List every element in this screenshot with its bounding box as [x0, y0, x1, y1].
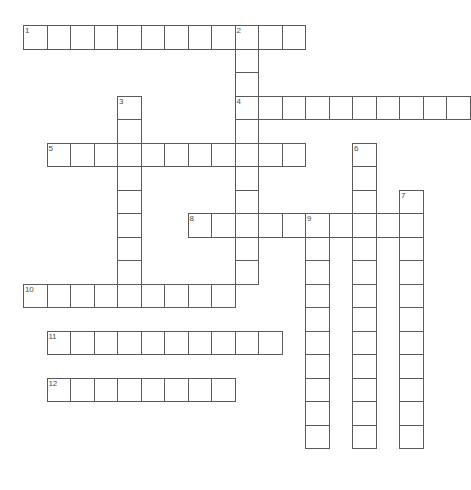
crossword-cell[interactable]	[235, 260, 260, 285]
crossword-cell[interactable]	[399, 354, 424, 379]
crossword-cell[interactable]	[258, 143, 283, 168]
crossword-cell[interactable]	[258, 331, 283, 356]
crossword-cell[interactable]	[399, 378, 424, 403]
crossword-cell[interactable]	[305, 307, 330, 332]
crossword-cell[interactable]	[282, 96, 307, 121]
crossword-cell[interactable]	[141, 143, 166, 168]
crossword-cell[interactable]	[117, 284, 142, 309]
crossword-cell[interactable]: 9	[305, 213, 330, 238]
crossword-cell[interactable]	[399, 425, 424, 450]
crossword-cell[interactable]	[70, 143, 95, 168]
crossword-cell[interactable]	[94, 284, 119, 309]
crossword-cell[interactable]	[164, 284, 189, 309]
crossword-cell[interactable]	[399, 284, 424, 309]
crossword-cell[interactable]	[117, 260, 142, 285]
crossword-cell[interactable]: 12	[47, 378, 72, 403]
crossword-cell[interactable]	[70, 284, 95, 309]
crossword-cell[interactable]	[352, 425, 377, 450]
crossword-cell[interactable]	[117, 378, 142, 403]
crossword-cell[interactable]	[305, 331, 330, 356]
crossword-cell[interactable]	[399, 401, 424, 426]
crossword-cell[interactable]	[211, 213, 236, 238]
crossword-cell[interactable]	[188, 25, 213, 50]
crossword-cell[interactable]: 5	[47, 143, 72, 168]
crossword-cell[interactable]	[235, 143, 260, 168]
crossword-cell[interactable]	[305, 260, 330, 285]
crossword-cell[interactable]	[329, 96, 354, 121]
crossword-cell[interactable]	[235, 49, 260, 74]
crossword-cell[interactable]	[188, 284, 213, 309]
crossword-cell[interactable]	[235, 331, 260, 356]
crossword-cell[interactable]	[235, 213, 260, 238]
crossword-cell[interactable]	[164, 143, 189, 168]
crossword-cell[interactable]	[282, 143, 307, 168]
crossword-cell[interactable]	[70, 25, 95, 50]
crossword-cell[interactable]	[305, 378, 330, 403]
crossword-cell[interactable]	[305, 425, 330, 450]
crossword-cell[interactable]	[47, 284, 72, 309]
crossword-cell[interactable]	[352, 213, 377, 238]
crossword-cell[interactable]	[282, 213, 307, 238]
crossword-cell[interactable]: 3	[117, 96, 142, 121]
crossword-cell[interactable]	[211, 25, 236, 50]
crossword-cell[interactable]	[211, 331, 236, 356]
crossword-cell[interactable]	[188, 331, 213, 356]
crossword-cell[interactable]	[305, 237, 330, 262]
crossword-cell[interactable]	[117, 213, 142, 238]
crossword-cell[interactable]	[235, 166, 260, 191]
crossword-cell[interactable]	[188, 143, 213, 168]
crossword-cell[interactable]	[376, 213, 401, 238]
crossword-cell[interactable]	[352, 307, 377, 332]
crossword-cell[interactable]	[352, 96, 377, 121]
crossword-cell[interactable]	[188, 378, 213, 403]
crossword-cell[interactable]: 2	[235, 25, 260, 50]
crossword-cell[interactable]	[352, 260, 377, 285]
crossword-cell[interactable]	[258, 96, 283, 121]
crossword-cell[interactable]	[352, 354, 377, 379]
crossword-cell[interactable]	[258, 213, 283, 238]
crossword-cell[interactable]	[305, 96, 330, 121]
crossword-cell[interactable]	[352, 401, 377, 426]
crossword-cell[interactable]	[305, 401, 330, 426]
crossword-cell[interactable]	[117, 119, 142, 144]
crossword-cell[interactable]: 10	[23, 284, 48, 309]
crossword-cell[interactable]	[235, 119, 260, 144]
crossword-cell[interactable]	[141, 331, 166, 356]
crossword-cell[interactable]	[352, 331, 377, 356]
crossword-cell[interactable]	[211, 284, 236, 309]
crossword-cell[interactable]	[117, 190, 142, 215]
crossword-cell[interactable]	[446, 96, 471, 121]
crossword-cell[interactable]	[164, 331, 189, 356]
crossword-cell[interactable]	[70, 378, 95, 403]
crossword-cell[interactable]: 11	[47, 331, 72, 356]
crossword-cell[interactable]	[399, 96, 424, 121]
crossword-cell[interactable]	[94, 143, 119, 168]
crossword-cell[interactable]	[352, 378, 377, 403]
crossword-cell[interactable]	[211, 143, 236, 168]
crossword-cell[interactable]	[94, 378, 119, 403]
crossword-cell[interactable]: 8	[188, 213, 213, 238]
crossword-cell[interactable]	[376, 96, 401, 121]
crossword-cell[interactable]	[117, 143, 142, 168]
crossword-cell[interactable]	[235, 190, 260, 215]
crossword-cell[interactable]: 1	[23, 25, 48, 50]
crossword-cell[interactable]: 7	[399, 190, 424, 215]
crossword-cell[interactable]	[352, 190, 377, 215]
crossword-cell[interactable]	[329, 213, 354, 238]
crossword-cell[interactable]	[352, 237, 377, 262]
crossword-cell[interactable]	[423, 96, 448, 121]
crossword-cell[interactable]	[305, 284, 330, 309]
crossword-cell[interactable]	[399, 307, 424, 332]
crossword-cell[interactable]	[117, 166, 142, 191]
crossword-cell[interactable]	[47, 25, 72, 50]
crossword-cell[interactable]	[141, 25, 166, 50]
crossword-cell[interactable]	[399, 213, 424, 238]
crossword-cell[interactable]	[70, 331, 95, 356]
crossword-cell[interactable]	[94, 25, 119, 50]
crossword-cell[interactable]	[282, 25, 307, 50]
crossword-cell[interactable]: 4	[235, 96, 260, 121]
crossword-cell[interactable]	[141, 378, 166, 403]
crossword-cell[interactable]: 6	[352, 143, 377, 168]
crossword-cell[interactable]	[141, 284, 166, 309]
crossword-cell[interactable]	[399, 331, 424, 356]
